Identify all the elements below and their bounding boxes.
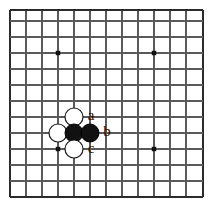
- star-point-top-left: [56, 51, 60, 55]
- label-b: b: [103, 123, 111, 139]
- black-stone-left: [65, 124, 83, 142]
- white-stone-bottom: [65, 140, 83, 158]
- go-board-canvas: abc: [0, 0, 220, 216]
- white-stone-top: [65, 108, 83, 126]
- label-c: c: [88, 140, 95, 156]
- go-board-diagram: abc: [0, 0, 220, 216]
- label-a: a: [88, 107, 95, 123]
- board-grid: [10, 10, 203, 197]
- black-stone-right: [81, 124, 99, 142]
- white-stone-left: [49, 124, 67, 142]
- star-point-top-right: [152, 51, 156, 55]
- star-point-bottom-left: [56, 147, 60, 151]
- star-point-bottom-right: [152, 147, 156, 151]
